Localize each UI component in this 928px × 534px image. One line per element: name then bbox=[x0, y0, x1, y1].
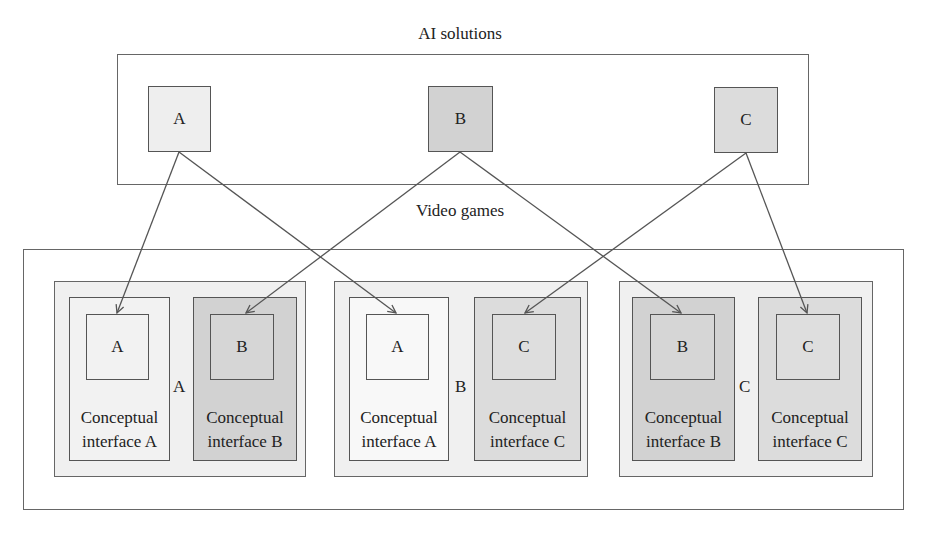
ai-solution-c-label: C bbox=[740, 110, 751, 130]
ai-solution-c: C bbox=[714, 87, 778, 153]
conceptual-box-c: C bbox=[492, 314, 556, 380]
panel-caption: Conceptualinterface C bbox=[475, 406, 580, 454]
conceptual-box-b: B bbox=[650, 314, 715, 380]
video-games-title: Video games bbox=[360, 201, 560, 221]
panel-caption: Conceptualinterface B bbox=[194, 406, 296, 454]
panel-caption: Conceptualinterface B bbox=[633, 406, 734, 454]
group-label-b: B bbox=[455, 377, 466, 397]
conceptual-box-b: B bbox=[210, 314, 274, 380]
panel-caption: Conceptualinterface C bbox=[759, 406, 861, 454]
conceptual-box-c: C bbox=[776, 314, 840, 380]
ai-solution-a-label: A bbox=[173, 109, 185, 129]
group-label-c: C bbox=[739, 377, 750, 397]
ai-solutions-title: AI solutions bbox=[360, 24, 560, 44]
ai-solution-b-label: B bbox=[455, 109, 466, 129]
ai-solution-a: A bbox=[148, 86, 211, 152]
ai-solution-b: B bbox=[428, 86, 493, 152]
conceptual-box-a: A bbox=[366, 314, 429, 380]
panel-caption: Conceptualinterface A bbox=[70, 406, 169, 454]
conceptual-box-a: A bbox=[86, 314, 149, 380]
group-label-a: A bbox=[173, 377, 185, 397]
panel-caption: Conceptualinterface A bbox=[350, 406, 448, 454]
